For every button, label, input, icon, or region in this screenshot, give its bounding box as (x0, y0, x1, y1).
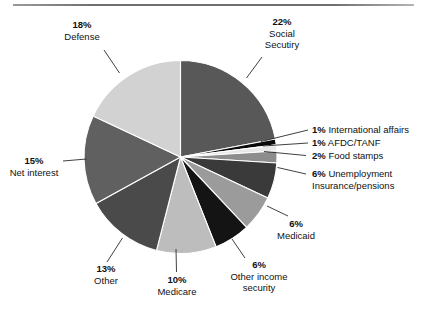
slice-name-unemployment-line1: Unemployment (328, 168, 392, 179)
slice-name-social-security-line1: Social (240, 28, 324, 40)
slice-name-defense: Defense (50, 31, 114, 43)
slice-name-international-affairs: International affairs (328, 124, 409, 135)
slice-name-other-income-security-line2: security (216, 282, 302, 294)
slice-label-international-affairs: 1% International affairs (312, 124, 409, 136)
leader-line-net-interest (63, 159, 87, 161)
slice-value-medicare: 10% (167, 274, 186, 285)
slice-name-other-income-security-line1: Other income (216, 271, 302, 283)
slice-name-unemployment-line2: Insurance/pensions (312, 180, 394, 192)
slice-label-other: 13% Other (76, 263, 136, 286)
slice-value-other-income-security: 6% (252, 259, 266, 270)
pie-chart-figure: 22% Social Secutiry 1% International aff… (0, 0, 427, 321)
slice-value-unemployment: 6% (312, 168, 326, 179)
slice-label-medicaid: 6% Medicaid (266, 218, 326, 241)
slice-name-food-stamps: Food stamps (328, 150, 383, 161)
slice-value-defense: 18% (72, 19, 91, 30)
slice-label-other-income-security: 6% Other income security (216, 259, 302, 294)
leader-line-other (107, 238, 123, 262)
slice-label-medicare: 10% Medicare (146, 274, 208, 297)
slice-value-social-security: 22% (272, 16, 291, 27)
slice-name-social-security-line2: Secutiry (240, 39, 324, 51)
leader-line-medicare (176, 249, 177, 272)
leader-line-unemployment (278, 168, 307, 175)
slice-label-afdc-tanf: 1% AFDC/TANF (312, 137, 380, 149)
slice-name-net-interest: Net interest (6, 167, 62, 179)
slice-name-medicare: Medicare (146, 286, 208, 298)
slice-value-other: 13% (96, 263, 115, 274)
slice-value-medicaid: 6% (289, 218, 303, 229)
leader-line-defense (104, 50, 120, 73)
slice-label-food-stamps: 2% Food stamps (312, 150, 383, 162)
slice-label-social-security: 22% Social Secutiry (240, 16, 324, 51)
slice-label-net-interest: 15% Net interest (6, 155, 62, 178)
leader-line-medicaid (267, 206, 288, 216)
pie-slices-group (84, 61, 277, 254)
slice-value-net-interest: 15% (24, 155, 43, 166)
slice-label-defense: 18% Defense (50, 19, 114, 42)
slice-name-medicaid: Medicaid (266, 230, 326, 242)
leader-line-other-income-security (232, 239, 245, 258)
slice-name-other: Other (76, 275, 136, 287)
slice-label-unemployment: 6% Unemployment Insurance/pensions (312, 168, 394, 191)
slice-value-afdc-tanf: 1% (312, 137, 326, 148)
slice-value-international-affairs: 1% (312, 124, 326, 135)
slice-value-food-stamps: 2% (312, 150, 326, 161)
slice-name-afdc-tanf: AFDC/TANF (328, 137, 381, 148)
leader-line-social-security (247, 57, 263, 78)
